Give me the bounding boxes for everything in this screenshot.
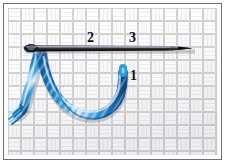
woven-fabric-swatch <box>8 8 217 155</box>
embroidery-diagram-figure: 2 3 1 Woven fabric swatch with a threade… <box>0 0 225 163</box>
stitch-point-label-3: 3 <box>129 31 136 45</box>
stitch-point-label-2: 2 <box>87 31 94 45</box>
fabric-weave-pattern <box>8 8 217 155</box>
stitch-point-label-1: 1 <box>130 69 137 83</box>
